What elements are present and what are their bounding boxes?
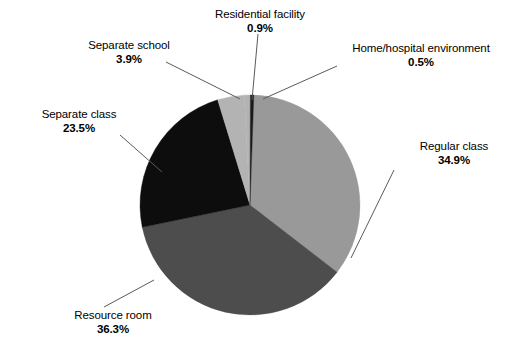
slice-label-separate-class-name: Separate class [14,108,144,122]
pie-chart: Residential facility 0.9% Home/hospital … [0,0,515,356]
leader-line-resource-room [104,280,154,307]
slice-label-separate-school-name: Separate school [57,39,201,53]
slice-label-resource-room-name: Resource room [44,309,182,323]
slice-label-residential-facility-name: Residential facility [187,8,333,22]
slice-label-home-hospital-environment-name: Home/hospital environment [331,42,511,56]
leader-line-residential-facility [252,34,258,100]
slice-label-separate-class-value: 23.5% [14,122,144,136]
slice-label-residential-facility-value: 0.9% [187,22,333,36]
slice-label-home-hospital-environment-value: 0.5% [331,56,511,70]
slice-label-resource-room-value: 36.3% [44,323,182,337]
slice-label-regular-class-value: 34.9% [398,154,510,168]
leader-line-separate-school [166,62,240,99]
leader-line-home-hospital [263,66,337,99]
slice-label-residential-facility: Residential facility 0.9% [187,8,333,35]
slice-label-separate-class: Separate class 23.5% [14,108,144,135]
pie-slice-group [140,95,360,315]
slice-label-home-hospital-environment: Home/hospital environment 0.5% [331,42,511,69]
slice-label-resource-room: Resource room 36.3% [44,309,182,336]
slice-label-separate-school: Separate school 3.9% [57,39,201,66]
slice-label-regular-class: Regular class 34.9% [398,140,510,167]
slice-label-regular-class-name: Regular class [398,140,510,154]
slice-label-separate-school-value: 3.9% [57,53,201,67]
